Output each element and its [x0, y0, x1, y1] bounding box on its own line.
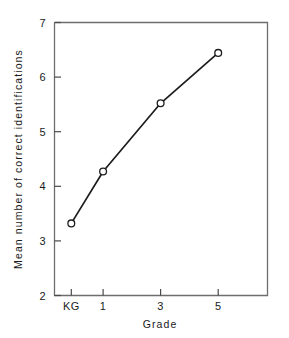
y-tick-label-3: 3	[39, 235, 46, 247]
y-tick-label-4: 4	[39, 180, 46, 192]
y-tick-label-5: 5	[39, 126, 46, 138]
y-tick-label-7: 7	[39, 17, 46, 29]
x-axis-title: Grade	[143, 318, 178, 330]
data-point-grade-1	[100, 168, 107, 175]
y-axis-title: Mean number of correct identifications	[12, 49, 24, 269]
data-point-grade-3	[157, 100, 164, 107]
y-tick-label-2: 2	[39, 290, 46, 302]
x-tick-label-5: 5	[215, 300, 222, 312]
chart-figure: 7 6 5 4 3 2 KG 1 3 5	[0, 0, 289, 338]
y-tick-label-6: 6	[39, 71, 46, 83]
line-chart-plot: 7 6 5 4 3 2 KG 1 3 5	[0, 0, 289, 338]
x-tick-label-1: 1	[100, 300, 107, 312]
chart-background	[0, 0, 289, 338]
x-tick-label-3: 3	[157, 300, 164, 312]
data-point-grade-5	[215, 50, 222, 57]
data-point-kg	[68, 220, 75, 227]
x-tick-label-kg: KG	[63, 300, 80, 312]
